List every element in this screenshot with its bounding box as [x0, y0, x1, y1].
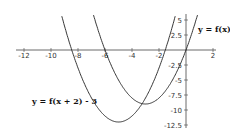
chart: -12-10-8-6-4-22 52.5-2.5-5-7.5-10-12.5 y…: [0, 0, 230, 138]
svg-text:-12: -12: [18, 52, 29, 60]
svg-text:2: 2: [211, 52, 215, 60]
plot-area: -12-10-8-6-4-22 52.5-2.5-5-7.5-10-12.5 y…: [0, 0, 230, 138]
series-shifted: [62, 16, 175, 122]
svg-text:-8: -8: [75, 52, 82, 60]
svg-text:-10: -10: [171, 107, 182, 115]
svg-text:-4: -4: [129, 52, 137, 60]
svg-text:-6: -6: [102, 52, 110, 60]
label-f: y = f(x): [197, 24, 230, 34]
svg-text:-7.5: -7.5: [168, 92, 182, 100]
svg-text:-12.5: -12.5: [164, 122, 182, 130]
svg-text:-5: -5: [175, 77, 182, 85]
svg-text:5: 5: [178, 17, 182, 25]
label-shifted: y = f(x + 2) - 3: [31, 96, 97, 106]
svg-text:-10: -10: [45, 52, 56, 60]
svg-text:-2: -2: [156, 52, 163, 60]
svg-text:2.5: 2.5: [171, 32, 182, 40]
